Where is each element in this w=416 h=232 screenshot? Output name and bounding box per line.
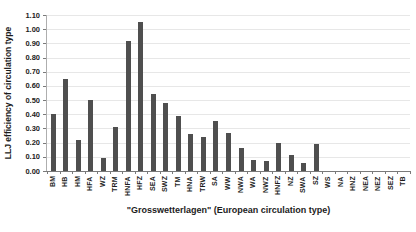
y-tick-mark [43, 29, 46, 30]
x-tick-mark [235, 171, 236, 174]
gridline [47, 128, 410, 129]
x-category-label: HNFZ [274, 176, 283, 206]
y-tick-mark [43, 100, 46, 101]
x-tick-mark [310, 171, 311, 174]
gridline [47, 29, 410, 30]
y-tick-label: 1.10 [0, 11, 40, 20]
y-tick-label: 1.00 [0, 25, 40, 34]
bar [314, 144, 319, 171]
x-category-label: HFZ [136, 176, 145, 206]
x-category-label: TM [174, 176, 183, 206]
y-tick-mark [43, 128, 46, 129]
bar [213, 121, 218, 171]
x-tick-mark [335, 171, 336, 174]
y-tick-label: 0.80 [0, 53, 40, 62]
bar [126, 41, 131, 171]
bar [176, 116, 181, 171]
x-category-label: WA [249, 176, 258, 206]
bar [163, 103, 168, 171]
bar [264, 161, 269, 171]
x-category-label: HNZ [349, 176, 358, 206]
gridline [47, 43, 410, 44]
y-tick-label: 0.40 [0, 110, 40, 119]
x-tick-mark [397, 171, 398, 174]
bar [239, 148, 244, 171]
bar [101, 158, 106, 171]
gridline [47, 15, 410, 16]
x-category-label: NEA [362, 176, 371, 206]
x-category-label: SZ [312, 176, 321, 206]
gridline [47, 86, 410, 87]
bar [76, 140, 81, 171]
x-tick-mark [72, 171, 73, 174]
y-tick-mark [43, 143, 46, 144]
gridline [47, 58, 410, 59]
bar [188, 134, 193, 171]
x-category-label: TRM [111, 176, 120, 206]
x-category-label: TB [399, 176, 408, 206]
y-tick-label: 0.10 [0, 152, 40, 161]
x-category-label: HB [61, 176, 70, 206]
bar [251, 160, 256, 171]
bar [113, 127, 118, 171]
x-category-label: NWZ [262, 176, 271, 206]
y-tick-label: 0.90 [0, 39, 40, 48]
plot-area [47, 15, 410, 171]
x-tick-mark [122, 171, 123, 174]
x-category-label: HNFA [124, 176, 133, 206]
y-tick-mark [43, 114, 46, 115]
x-category-label: NEZ [374, 176, 383, 206]
x-category-label: SEA [149, 176, 158, 206]
x-axis-line [46, 171, 411, 172]
x-tick-mark [197, 171, 198, 174]
x-tick-mark [247, 171, 248, 174]
bar-chart: LLJ efficiency of circulation type 0.000… [0, 0, 416, 232]
bar [138, 22, 143, 171]
y-tick-mark [43, 15, 46, 16]
x-tick-mark [222, 171, 223, 174]
y-tick-mark [43, 171, 46, 172]
y-tick-mark [43, 157, 46, 158]
bar [63, 79, 68, 171]
bar [276, 143, 281, 171]
x-tick-mark [60, 171, 61, 174]
bar [151, 94, 156, 171]
x-category-label: SWZ [161, 176, 170, 206]
bar [301, 163, 306, 172]
gridline [47, 100, 410, 101]
bar [51, 114, 56, 171]
y-tick-label: 0.70 [0, 67, 40, 76]
x-axis-title: "Grosswetterlagen" (European circulation… [47, 205, 410, 215]
x-tick-mark [185, 171, 186, 174]
x-category-label: NA [337, 176, 346, 206]
x-category-label: SEZ [387, 176, 396, 206]
x-category-label: HNA [186, 176, 195, 206]
x-tick-mark [285, 171, 286, 174]
bar [226, 133, 231, 171]
x-tick-mark [322, 171, 323, 174]
x-tick-mark [85, 171, 86, 174]
x-category-label: NZ [287, 176, 296, 206]
y-tick-mark [43, 58, 46, 59]
x-category-label: SWA [299, 176, 308, 206]
x-category-label: WZ [99, 176, 108, 206]
x-tick-mark [135, 171, 136, 174]
bar [201, 137, 206, 171]
x-tick-mark [172, 171, 173, 174]
x-tick-mark [147, 171, 148, 174]
x-tick-mark [410, 171, 411, 174]
x-tick-mark [47, 171, 48, 174]
y-tick-mark [43, 43, 46, 44]
bar [289, 155, 294, 171]
x-tick-mark [360, 171, 361, 174]
x-category-label: SA [211, 176, 220, 206]
x-tick-mark [260, 171, 261, 174]
x-tick-mark [372, 171, 373, 174]
gridline [47, 114, 410, 115]
y-tick-label: 0.30 [0, 124, 40, 133]
x-tick-mark [97, 171, 98, 174]
x-tick-mark [210, 171, 211, 174]
x-category-label: BM [49, 176, 58, 206]
gridline [47, 72, 410, 73]
x-category-label: TRW [199, 176, 208, 206]
